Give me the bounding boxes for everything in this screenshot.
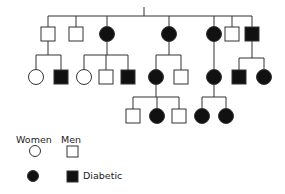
legend-men-label: Men	[61, 135, 81, 145]
male-unaffected-symbol	[174, 70, 188, 84]
male-unaffected-symbol	[172, 109, 186, 123]
legend-diabetic-label: Diabetic	[83, 171, 122, 181]
female-affected-symbol	[207, 70, 222, 85]
legend-women-unaffected-icon	[30, 146, 41, 157]
male-affected-symbol	[121, 70, 135, 84]
female-affected-symbol	[219, 109, 234, 124]
male-unaffected-symbol	[41, 27, 55, 41]
generation-2	[41, 27, 259, 42]
male-unaffected-symbol	[225, 27, 239, 41]
male-affected-symbol	[245, 27, 259, 41]
female-affected-symbol	[207, 27, 222, 42]
female-affected-symbol	[149, 70, 164, 85]
generation-4	[126, 109, 234, 124]
legend-men-unaffected-icon	[67, 146, 78, 157]
male-unaffected-symbol	[99, 70, 113, 84]
male-affected-symbol	[54, 70, 68, 84]
female-affected-symbol	[162, 27, 177, 42]
female-affected-symbol	[257, 70, 272, 85]
male-unaffected-symbol	[69, 27, 83, 41]
female-affected-symbol	[150, 109, 165, 124]
legend-women-label: Women	[16, 135, 52, 145]
female-unaffected-symbol	[29, 70, 44, 85]
female-unaffected-symbol	[77, 70, 92, 85]
female-affected-symbol	[100, 27, 115, 42]
male-affected-symbol	[232, 70, 246, 84]
connector-lines	[36, 7, 264, 109]
generation-3	[29, 70, 272, 85]
legend-symbols	[28, 146, 79, 183]
pedigree-chart	[0, 0, 285, 194]
legend-women-diabetic-icon	[28, 171, 39, 182]
male-unaffected-symbol	[126, 109, 140, 123]
female-affected-symbol	[195, 109, 210, 124]
legend-men-diabetic-icon	[67, 171, 78, 182]
